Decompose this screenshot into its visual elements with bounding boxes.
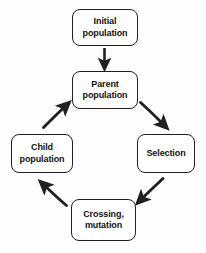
node-child-population-line2: population — [20, 154, 65, 166]
arrow-crossing-to-child — [44, 185, 67, 206]
node-initial-population[interactable]: Initial population — [72, 9, 138, 46]
node-selection[interactable]: Selection — [137, 134, 195, 173]
arrow-child-to-parent — [44, 106, 66, 128]
node-crossing-mutation[interactable]: Crossing, mutation — [71, 199, 136, 241]
node-selection-line1: Selection — [146, 148, 185, 160]
arrow-selection-to-crossing — [141, 179, 163, 200]
node-initial-population-line2: population — [83, 28, 128, 40]
node-child-population[interactable]: Child population — [11, 134, 73, 173]
node-parent-population-line2: population — [83, 90, 128, 102]
node-parent-population-line1: Parent — [91, 79, 118, 91]
node-initial-population-line1: Initial — [94, 16, 117, 28]
node-child-population-line1: Child — [31, 142, 53, 154]
node-parent-population[interactable]: Parent population — [72, 71, 138, 109]
node-crossing-mutation-line2: mutation — [85, 220, 122, 232]
node-crossing-mutation-line1: Crossing, — [83, 209, 124, 221]
arrow-parent-to-selection — [141, 103, 164, 125]
evolutionary-algorithm-cycle-diagram: Initial population Parent population Sel… — [0, 0, 206, 253]
